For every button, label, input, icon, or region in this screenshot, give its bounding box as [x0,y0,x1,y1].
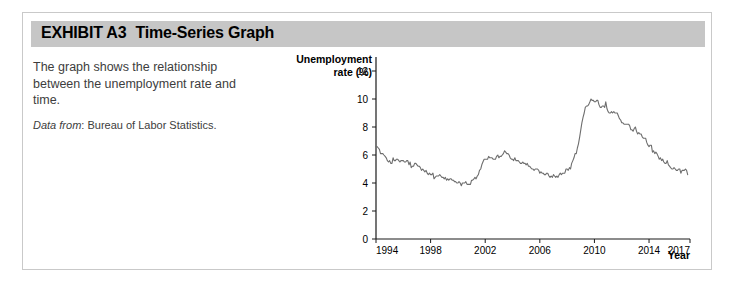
exhibit-header-title: EXHIBIT A3Time-Series Graph [41,24,274,42]
x-axis-title: Year [668,249,690,261]
chart-svg: Unemployment rate (%) 024681012 19941998… [266,43,696,263]
description-block: The graph shows the relationship between… [33,59,263,132]
y-tick-label: 0 [362,234,368,245]
y-axis-title-line1: Unemployment [296,53,372,65]
y-tick-label: 8 [362,122,368,133]
unemployment-rate-line [376,99,688,186]
y-tick-label: 6 [362,150,368,161]
source-attribution: Data from: Bureau of Labor Statistics. [33,118,263,132]
y-tick-label: 4 [362,178,368,189]
source-value: Bureau of Labor Statistics. [87,119,216,131]
exhibit-card: EXHIBIT A3Time-Series Graph The graph sh… [22,12,712,270]
description-text: The graph shows the relationship between… [33,59,263,109]
x-tick-label: 2006 [529,245,552,256]
y-axis-ticks: 024681012 [357,66,376,245]
x-tick-label: 1994 [376,245,399,256]
x-tick-label: 2010 [583,245,606,256]
source-separator: : [81,119,84,131]
x-tick-label: 1998 [419,245,442,256]
source-prefix: Data from [33,119,81,131]
x-tick-label: 2014 [638,245,661,256]
exhibit-number: EXHIBIT A3 [41,24,126,41]
x-axis-ticks: 1994199820022006201020142017 [376,239,690,256]
plot-group: 024681012 1994199820022006201020142017 [357,57,691,256]
time-series-chart: Unemployment rate (%) 024681012 19941998… [266,43,696,263]
y-tick-label: 12 [357,66,369,77]
exhibit-title-text: Time-Series Graph [135,24,274,41]
y-tick-label: 2 [362,206,368,217]
y-tick-label: 10 [357,94,369,105]
x-tick-label: 2002 [474,245,497,256]
